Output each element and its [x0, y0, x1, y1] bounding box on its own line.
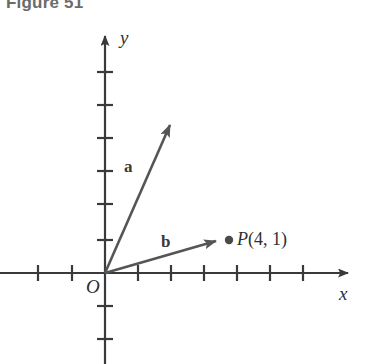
vector-b-label: b: [161, 232, 170, 252]
coordinate-plot: [0, 0, 368, 364]
vector-a-label: a: [124, 157, 133, 177]
origin-label: O: [86, 276, 100, 298]
y-axis-label: y: [120, 27, 128, 49]
y-axis: [97, 36, 113, 364]
figure-container: Figure 51: [0, 0, 368, 364]
point-p-coords: (4, 1): [248, 229, 287, 249]
point-p-dot: [225, 236, 233, 244]
x-axis: [0, 265, 348, 281]
point-p-label: P(4, 1): [237, 229, 287, 250]
point-p-letter: P: [237, 229, 248, 249]
x-axis-label: x: [339, 283, 347, 305]
